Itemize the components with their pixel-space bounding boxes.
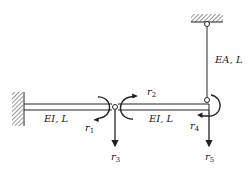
pin-support-top xyxy=(191,14,223,27)
structural-diagram: EI, L EI, L EA, L r1 r2 r3 r4 r5 xyxy=(0,0,251,179)
dof-index: 4 xyxy=(195,125,199,133)
dof-index: 1 xyxy=(90,127,94,135)
dof-index: 5 xyxy=(210,156,214,164)
hinge-icon xyxy=(113,105,118,110)
moment-arrow-r2-icon xyxy=(120,96,136,119)
dof-label-r5: r5 xyxy=(205,151,214,164)
dof-index: 3 xyxy=(116,156,120,164)
moment-arrow-r1-icon xyxy=(94,97,110,120)
beam-1 xyxy=(24,104,112,110)
fixed-support-left xyxy=(12,92,24,126)
beam-2 xyxy=(118,104,209,110)
moment-arrow-r4-icon xyxy=(200,95,220,116)
member-label-beam-2: EI, L xyxy=(149,113,173,124)
dof-label-r4: r4 xyxy=(190,120,199,133)
dof-label-r1: r1 xyxy=(85,122,94,135)
member-label-rod: EA, L xyxy=(215,54,243,65)
pin-joint-icon xyxy=(205,98,210,103)
dof-index: 2 xyxy=(152,91,156,99)
dof-label-r3: r3 xyxy=(111,151,120,164)
member-label-beam-1: EI, L xyxy=(44,113,68,124)
dof-label-r2: r2 xyxy=(147,86,156,99)
